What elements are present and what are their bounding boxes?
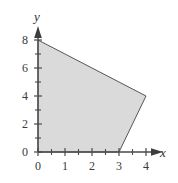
x-tick-label-2: 2 [82,160,102,172]
y-axis-arrowhead [34,26,42,38]
x-tick-label-4: 4 [136,160,156,172]
x-axis-label: x [160,146,166,159]
y-tick-label-0: 0 [12,146,28,158]
y-axis-label: y [34,10,40,23]
coordinate-plane-figure: 0 1 2 3 4 0 2 4 6 8 x y [0,0,178,183]
x-tick-label-1: 1 [55,160,75,172]
x-tick-label-3: 3 [109,160,129,172]
shaded-region-polygon [38,40,146,152]
x-tick-label-0: 0 [28,160,48,172]
y-tick-label-6: 6 [12,62,28,74]
y-tick-label-4: 4 [12,90,28,102]
y-tick-label-2: 2 [12,118,28,130]
y-tick-label-8: 8 [12,34,28,46]
